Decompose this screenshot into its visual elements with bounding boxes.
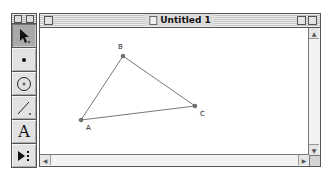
zoom-box[interactable]	[297, 16, 306, 25]
window-title: Untitled 1	[160, 15, 210, 25]
compass-tool[interactable]	[12, 72, 36, 96]
scroll-right-button[interactable]: ▶	[298, 155, 309, 165]
left-arrow-icon: ◀	[43, 157, 48, 164]
point-b[interactable]	[121, 54, 125, 58]
point-label-b[interactable]: B	[118, 43, 123, 51]
point-icon	[20, 56, 28, 64]
scroll-down-button[interactable]: ▼	[309, 144, 319, 155]
down-arrow-icon: ▼	[312, 147, 317, 154]
sketch-window: Untitled 1 A B C ▲ ▼ ◀ ▶	[39, 13, 321, 167]
document-icon	[149, 16, 157, 25]
sketch-canvas[interactable]: A B C	[40, 28, 309, 155]
selection-arrow-tool[interactable]	[12, 24, 36, 48]
horizontal-scrollbar[interactable]: ◀ ▶	[40, 154, 309, 166]
segment-icon	[16, 100, 32, 116]
toolbox-titlebar[interactable]	[12, 14, 36, 24]
custom-tool[interactable]	[12, 144, 36, 167]
vertical-scrollbar[interactable]: ▲ ▼	[308, 28, 320, 155]
custom-tool-icon	[16, 149, 32, 163]
resize-grip[interactable]	[309, 155, 320, 166]
point-label-a[interactable]: A	[86, 124, 91, 132]
point-c[interactable]	[193, 104, 197, 108]
point-tool[interactable]	[12, 48, 36, 72]
straightedge-tool[interactable]	[12, 96, 36, 120]
point-a[interactable]	[79, 118, 83, 122]
close-box[interactable]	[44, 16, 53, 25]
toolbox-palette: A	[11, 13, 37, 168]
scroll-up-button[interactable]: ▲	[309, 28, 319, 39]
segment-bc[interactable]	[123, 56, 195, 106]
triangle-sketch	[40, 28, 310, 156]
collapse-box[interactable]	[308, 16, 317, 25]
window-titlebar[interactable]: Untitled 1	[40, 14, 320, 28]
scroll-left-button[interactable]: ◀	[40, 155, 51, 165]
toolbox-close-box[interactable]	[14, 15, 22, 23]
text-icon: A	[18, 122, 30, 141]
circle-icon	[16, 76, 32, 92]
toolbox-zoom-box[interactable]	[26, 15, 34, 23]
right-arrow-icon: ▶	[302, 157, 307, 164]
point-label-c[interactable]: C	[200, 110, 205, 118]
segment-ab[interactable]	[81, 56, 123, 120]
window-title-group: Untitled 1	[145, 14, 214, 26]
up-arrow-icon: ▲	[312, 30, 317, 37]
arrow-icon	[17, 28, 31, 44]
segment-ca[interactable]	[81, 106, 195, 120]
text-tool[interactable]: A	[12, 120, 36, 144]
